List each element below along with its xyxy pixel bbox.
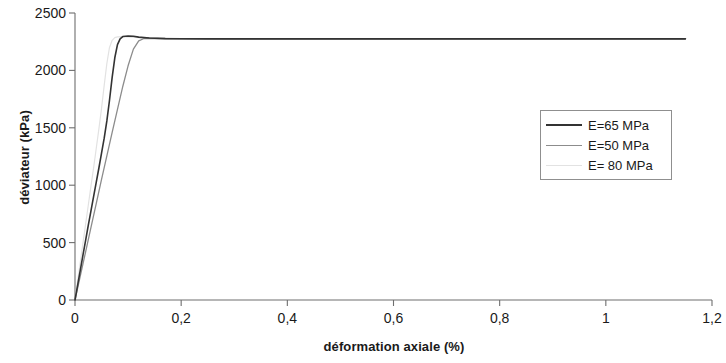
legend-label: E=50 MPa <box>588 139 649 152</box>
legend-label: E=65 MPa <box>588 119 649 132</box>
legend-line-swatch <box>546 124 582 126</box>
chart-legend: E=65 MPaE=50 MPaE= 80 MPa <box>540 110 672 180</box>
legend-item: E=50 MPa <box>546 135 666 155</box>
chart-figure: déviateur (kPa) déformation axiale (%) 0… <box>0 0 726 363</box>
legend-item: E= 80 MPa <box>546 155 666 175</box>
plot-area <box>0 0 726 363</box>
legend-item: E=65 MPa <box>546 115 666 135</box>
legend-line-swatch <box>546 165 582 166</box>
legend-label: E= 80 MPa <box>588 159 653 172</box>
legend-line-swatch <box>546 145 582 146</box>
